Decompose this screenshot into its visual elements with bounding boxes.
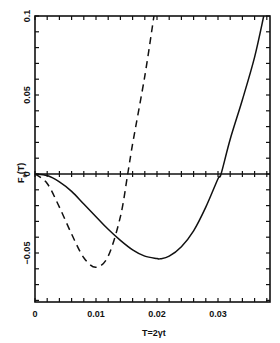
solid-curve — [35, 16, 264, 259]
y-tick-label: 0.05 — [22, 86, 32, 104]
y-tick-label: −0.05 — [22, 242, 32, 265]
x-tick-label: 0.03 — [209, 309, 227, 319]
x-axis-label: T=2γt — [142, 328, 166, 338]
y-tick-label: 0.1 — [22, 10, 32, 23]
chart: 00.010.020.03−0.0500.050.1 T=2γt Fθ(T) — [0, 0, 280, 343]
x-tick-label: 0 — [32, 309, 37, 319]
plot-frame — [35, 16, 270, 302]
tick-labels: 00.010.020.03−0.0500.050.1 — [22, 10, 227, 319]
curves — [35, 16, 264, 267]
axis-ticks — [35, 16, 270, 302]
dashed-curve — [35, 16, 154, 267]
x-tick-label: 0.02 — [148, 309, 166, 319]
x-tick-label: 0.01 — [87, 309, 105, 319]
